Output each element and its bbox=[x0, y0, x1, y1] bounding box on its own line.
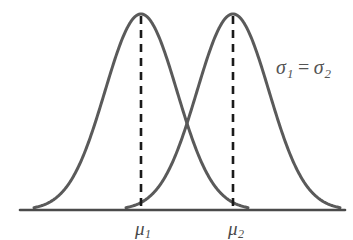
normal-distributions-figure: μ1 μ2 σ1=σ2 bbox=[0, 0, 353, 240]
mu2-symbol: μ bbox=[228, 218, 238, 239]
normal-curve-1 bbox=[34, 14, 248, 208]
sigma1-subscript: 1 bbox=[287, 66, 294, 81]
sigma-equality-annotation: σ1=σ2 bbox=[276, 57, 332, 80]
mu1-symbol: μ bbox=[135, 218, 145, 239]
normal-curve-2 bbox=[126, 14, 340, 208]
equals-sign: = bbox=[298, 56, 310, 78]
x-tick-label-mu2: μ2 bbox=[228, 219, 244, 240]
x-tick-label-mu1: μ1 bbox=[135, 219, 151, 240]
mu2-subscript: 2 bbox=[238, 227, 244, 240]
sigma2-symbol: σ bbox=[314, 56, 324, 78]
mu1-subscript: 1 bbox=[145, 227, 151, 240]
distribution-plot bbox=[0, 0, 353, 240]
sigma1-symbol: σ bbox=[276, 56, 286, 78]
sigma2-subscript: 2 bbox=[325, 66, 332, 81]
